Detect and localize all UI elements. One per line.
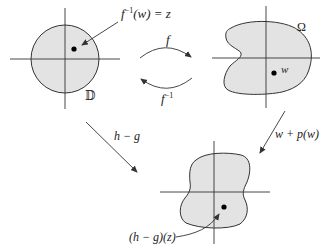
arrow-h-minus-g-label: h − g — [114, 129, 140, 143]
omega-point-label: w — [281, 63, 289, 75]
arrow-w-plus-p-label: w + p(w) — [275, 127, 319, 141]
arrow-f-inverse — [141, 78, 192, 88]
image-point-annotation: (h − g)(z) — [129, 230, 176, 244]
image-point — [221, 204, 226, 209]
omega-label: Ω — [297, 20, 306, 34]
arrow-f-label: f — [166, 32, 172, 47]
omega-point — [271, 70, 276, 75]
arrow-f-inverse-label: f−1 — [161, 91, 173, 106]
disk-label: 𝔻 — [85, 89, 95, 103]
arrow-f — [140, 48, 191, 58]
disk-point — [71, 46, 76, 51]
unit-disk: 𝔻 — [10, 8, 120, 109]
image-region: (h − g)(z) — [129, 141, 270, 244]
disk-point-annotation: f−1(w) = z — [121, 6, 171, 21]
diagram-canvas: 𝔻 f−1(w) = z f f−1 w Ω h − g w + p(w) (h… — [0, 0, 331, 251]
omega-region: w Ω — [212, 6, 320, 108]
